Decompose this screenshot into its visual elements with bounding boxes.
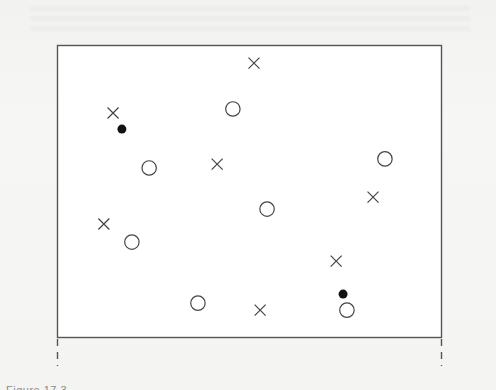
plot-frame [58, 46, 442, 338]
figure-caption: Figure 17.3 [6, 380, 67, 390]
filled-dot-marker-icon [117, 125, 126, 134]
filled-dot-marker-icon [339, 290, 348, 299]
figure-page: Figure 17.3 [0, 0, 496, 390]
scatter-plot [0, 0, 496, 390]
